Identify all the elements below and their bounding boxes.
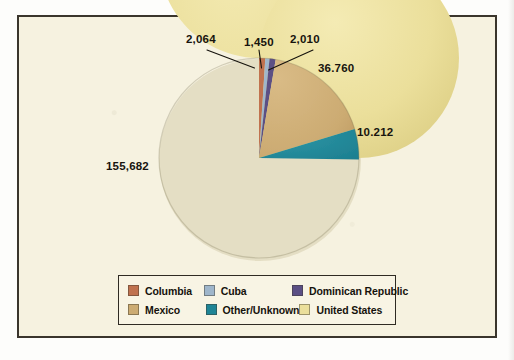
- legend-label-mexico: Mexico: [145, 304, 180, 316]
- value-label-dominican-republic: 2,010: [290, 33, 320, 45]
- legend-label-other-unknown: Other/Unknown: [223, 304, 300, 316]
- legend-item-cuba[interactable]: Cuba: [204, 285, 292, 297]
- legend-label-dominican-republic: Dominican Republic: [309, 285, 408, 297]
- legend-row: Mexico Other/Unknown United States: [128, 300, 388, 319]
- value-label-mexico: 36.760: [318, 62, 354, 74]
- legend-item-other-unknown[interactable]: Other/Unknown: [206, 304, 300, 316]
- legend-item-columbia[interactable]: Columbia: [128, 285, 204, 297]
- legend-swatch-dominican-republic: [292, 285, 303, 296]
- value-label-united-states: 155,682: [106, 160, 149, 172]
- chart-legend: Columbia Cuba Dominican Republic Mexico …: [118, 275, 396, 325]
- legend-label-cuba: Cuba: [221, 285, 247, 297]
- legend-item-united-states[interactable]: United States: [299, 304, 388, 316]
- legend-row: Columbia Cuba Dominican Republic: [128, 281, 388, 300]
- value-label-cuba: 1,450: [244, 36, 274, 48]
- legend-label-united-states: United States: [316, 304, 382, 316]
- legend-swatch-other-unknown: [206, 304, 217, 315]
- legend-swatch-mexico: [128, 304, 139, 315]
- legend-swatch-united-states: [299, 304, 310, 315]
- legend-item-mexico[interactable]: Mexico: [128, 304, 206, 316]
- legend-swatch-columbia: [128, 285, 139, 296]
- value-label-columbia: 2,064: [186, 33, 216, 45]
- legend-swatch-cuba: [204, 285, 215, 296]
- legend-item-dominican-republic[interactable]: Dominican Republic: [292, 285, 388, 297]
- value-label-other-unknown: 10.212: [357, 126, 393, 138]
- figure-container: 2,064 1,450 2,010 36.760 10.212 155,682 …: [0, 0, 514, 360]
- legend-label-columbia: Columbia: [145, 285, 192, 297]
